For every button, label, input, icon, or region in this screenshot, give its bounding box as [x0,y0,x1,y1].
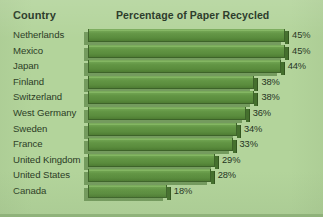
bar-highlight [89,60,280,62]
chart-row: United Kingdom29% [0,153,323,169]
bar-value-label: 36% [253,108,271,118]
category-label: Finland [13,76,87,87]
bar-end-cap [215,156,219,169]
bar-end-cap [246,109,250,122]
bar-end-cap [285,47,289,60]
bar-highlight [89,107,245,109]
bar-value-label: 38% [261,92,279,102]
bar-end-cap [281,62,285,75]
bar [88,123,237,136]
category-label: Sweden [13,123,87,134]
bar-highlight [89,45,284,47]
bar [88,138,233,151]
category-label: France [13,138,87,149]
bar-value-label: 34% [244,124,262,134]
bar [88,91,254,104]
bar [88,29,285,42]
chart-row: United States28% [0,168,323,184]
bar-highlight [89,91,253,93]
country-column-header: Country [13,9,56,21]
category-label: United States [13,169,87,180]
bar [88,60,281,73]
chart-row: Mexico45% [0,44,323,60]
bar-value-label: 45% [292,46,310,56]
bar-end-cap [211,171,215,184]
bar-value-label: 38% [261,77,279,87]
chart-row: Finland38% [0,75,323,91]
bar [88,185,167,198]
category-label: Netherlands [13,29,87,40]
paper-recycling-bar-chart: Country Percentage of Paper Recycled Net… [0,0,323,217]
chart-row: Netherlands45% [0,28,323,44]
category-label: Japan [13,60,87,71]
bar-value-label: 29% [222,155,240,165]
bar-end-cap [254,93,258,106]
bar-highlight [89,169,210,171]
bar-highlight [89,123,236,125]
bar-end-cap [237,125,241,138]
bar-end-cap [167,187,171,200]
chart-row: Switzerland38% [0,90,323,106]
chart-header: Country Percentage of Paper Recycled [0,9,323,26]
bar-highlight [89,138,232,140]
category-label: Mexico [13,45,87,56]
bar-value-label: 44% [288,61,306,71]
bar-highlight [89,185,166,187]
bar [88,107,246,120]
bar [88,169,211,182]
bar-highlight [89,76,253,78]
bar [88,154,215,167]
chart-row: Canada18% [0,184,323,200]
bar-value-label: 33% [240,139,258,149]
category-label: United Kingdom [13,154,87,165]
bar-end-cap [285,31,289,44]
chart-title: Percentage of Paper Recycled [116,9,269,21]
chart-row: Japan44% [0,59,323,75]
bar-end-cap [233,140,237,153]
bar-value-label: 18% [174,186,192,196]
chart-row: France33% [0,137,323,153]
bar [88,45,285,58]
bar-highlight [89,154,214,156]
bar-end-cap [254,78,258,91]
bar-value-label: 45% [292,30,310,40]
chart-plot-area: Netherlands45%Mexico45%Japan44%Finland38… [0,28,323,214]
chart-row: Sweden34% [0,122,323,138]
category-label: Switzerland [13,91,87,102]
bar-value-label: 28% [218,170,236,180]
bar [88,76,254,89]
category-label: Canada [13,185,87,196]
category-label: West Germany [13,107,87,118]
chart-row: West Germany36% [0,106,323,122]
bar-highlight [89,29,284,31]
